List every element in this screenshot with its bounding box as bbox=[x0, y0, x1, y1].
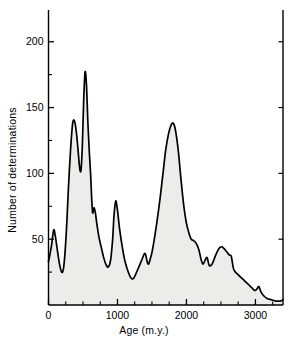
y-axis-tick-label: 100 bbox=[26, 167, 44, 179]
y-axis-title: Number of determinations bbox=[6, 107, 18, 233]
x-axis-tick-label: 0 bbox=[46, 309, 52, 321]
figure-caption bbox=[0, 342, 289, 352]
y-axis-tick-label: 200 bbox=[26, 35, 44, 47]
x-axis-tick-label: 2000 bbox=[175, 309, 199, 321]
figure-container: 50100150200 0100020003000 Age (m.y.) Num… bbox=[0, 0, 289, 352]
x-axis-tick-label: 3000 bbox=[244, 309, 268, 321]
y-axis-tick-label: 150 bbox=[26, 101, 44, 113]
y-axis-tick-label: 50 bbox=[32, 233, 44, 245]
x-axis-tick-label: 1000 bbox=[106, 309, 130, 321]
x-axis-title: Age (m.y.) bbox=[119, 324, 169, 336]
age-determinations-area-chart: 50100150200 0100020003000 Age (m.y.) Num… bbox=[0, 0, 289, 352]
